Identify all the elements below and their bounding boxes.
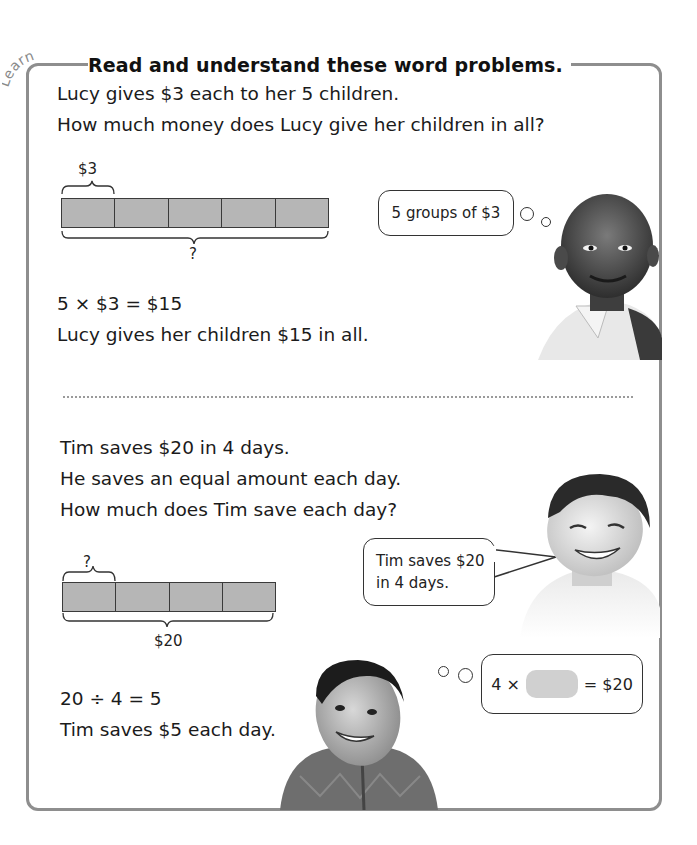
bar1-segment [62,199,115,227]
problem2-answer: Tim saves $5 each day. [60,714,276,745]
bar1-part-brace-icon [60,180,120,196]
section-divider [63,396,633,398]
bar1-segment [222,199,275,227]
problem2-line-2: He saves an equal amount each day. [60,463,401,494]
problem1-answer: Lucy gives her children $15 in all. [57,319,369,350]
problem2-solution: 20 ÷ 4 = 5 Tim saves $5 each day. [60,683,276,745]
speech-bubble-line-1: Tim saves $20 [376,550,485,572]
thought-bubble-2: 4 × = $20 [481,654,643,714]
thought-dot-large-icon [458,668,473,683]
problem1-statement: Lucy gives $3 each to her 5 children. Ho… [57,78,545,140]
bar2-segment [223,583,275,611]
problem1-line-2: How much money does Lucy give her childr… [57,109,545,140]
bar2-segment [170,583,223,611]
problem1-equation: 5 × $3 = $15 [57,288,369,319]
thought-bubble-2-left: 4 × [491,675,520,694]
thought-bubble-1: 5 groups of $3 [378,190,514,236]
missing-number-blank [526,670,578,698]
bar2-whole-brace-icon [61,611,281,629]
bar2-segment [63,583,116,611]
bubble-tail-joint [492,546,496,562]
bar1-segment [169,199,222,227]
bar1-segment [276,199,328,227]
bar1-whole-brace-icon [60,229,332,245]
thought-bubble-2-right: = $20 [584,675,633,694]
boy-grinning-photo [520,468,660,638]
bar1-model [61,198,329,228]
problem2-statement: Tim saves $20 in 4 days. He saves an equ… [60,432,401,525]
bar1-segment [115,199,168,227]
problem2-equation: 20 ÷ 4 = 5 [60,683,276,714]
bar2-model [62,582,276,612]
bar2-part-brace-icon [61,563,121,583]
boy-smiling-photo [528,188,662,360]
speech-bubble-line-2: in 4 days. [376,572,485,594]
bar2-segment [116,583,169,611]
problem2-line-3: How much does Tim save each day? [60,494,401,525]
problem2-line-1: Tim saves $20 in 4 days. [60,432,401,463]
speech-bubble-2: Tim saves $20 in 4 days. [363,538,495,606]
bar1-part-label: $3 [78,160,97,178]
bar1-whole-label: ? [189,245,197,263]
problem1-solution: 5 × $3 = $15 Lucy gives her children $15… [57,288,369,350]
thought-bubble-1-text: 5 groups of $3 [392,204,501,222]
boy-looking-up-photo [280,656,440,810]
bar2-whole-label: $20 [154,632,183,650]
page-title: Read and understand these word problems. [88,54,571,76]
problem1-line-1: Lucy gives $3 each to her 5 children. [57,78,545,109]
